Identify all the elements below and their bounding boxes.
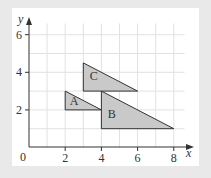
y-tick-label: 4 xyxy=(16,65,22,79)
y-tick-label: 2 xyxy=(16,103,22,117)
y-axis-label: y xyxy=(17,12,24,26)
x-axis-label: x xyxy=(185,146,192,160)
x-tick-label: 4 xyxy=(98,151,104,165)
x-tick-label: 8 xyxy=(171,151,177,165)
x-tick-label: 2 xyxy=(62,151,68,165)
y-tick-label: 6 xyxy=(16,28,22,42)
origin-label: 0 xyxy=(20,150,26,164)
triangle-label-c: C xyxy=(90,69,98,83)
y-axis-arrow-icon xyxy=(26,17,32,25)
triangle-label-b: B xyxy=(108,107,116,121)
x-tick-label: 6 xyxy=(135,151,141,165)
triangle-label-a: A xyxy=(70,94,79,108)
coordinate-grid: ABC 2468246 x y 0 xyxy=(0,0,211,178)
